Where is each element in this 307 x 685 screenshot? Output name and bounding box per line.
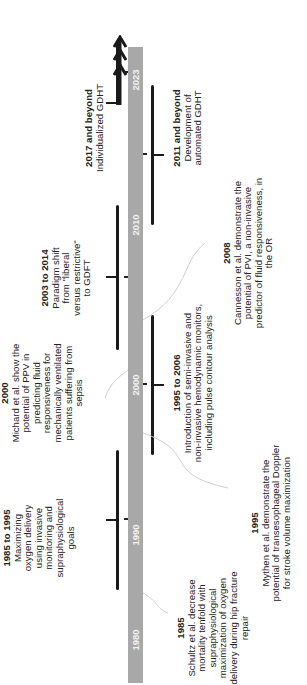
range-bar-2003-2014	[116, 205, 119, 350]
event-label-1985-1995: 1985 to 1995 Maximizing oxygen delivery …	[2, 499, 76, 578]
timeline-axis-bar	[128, 47, 143, 683]
event-label-1995: 1995 Mythen et al. demonstrate the poten…	[250, 445, 292, 602]
axis-tick	[143, 154, 147, 156]
event-label-1985: 1985 Schultz et al. decrease mortality t…	[176, 571, 250, 684]
range-bar-2011-beyond	[151, 85, 154, 225]
event-label-2011-beyond: 2011 and beyond Development of automated…	[172, 89, 204, 166]
axis-tick	[124, 519, 128, 521]
year-label-1980: 1980	[128, 629, 143, 650]
year-label-2010: 2010	[128, 214, 143, 235]
event-label-2000: 2000 Michard et al. show the potential o…	[0, 343, 85, 442]
year-label-2023: 2023	[128, 69, 143, 90]
event-label-2008: 2008 Cannesson et al. demonstrate the po…	[222, 178, 275, 328]
event-label-2003-2014: 2003 to 2014 Paradigm shift from "libera…	[40, 240, 93, 315]
range-bar-2017-beyond	[116, 40, 119, 105]
range-bar-1995-2006	[151, 315, 154, 455]
axis-tick	[124, 277, 128, 279]
year-label-2000: 2000	[128, 374, 143, 395]
range-bar-2017-stem-anchor	[116, 101, 119, 105]
year-label-1990: 1990	[128, 524, 143, 545]
range-bar-1985-1995	[116, 450, 119, 590]
event-label-1995-2006: 1995 to 2006 Introduction of semi-invasi…	[172, 304, 214, 462]
axis-tick	[143, 384, 147, 386]
event-label-2017-beyond: 2017 and beyond Individualized GDHT	[84, 84, 105, 172]
